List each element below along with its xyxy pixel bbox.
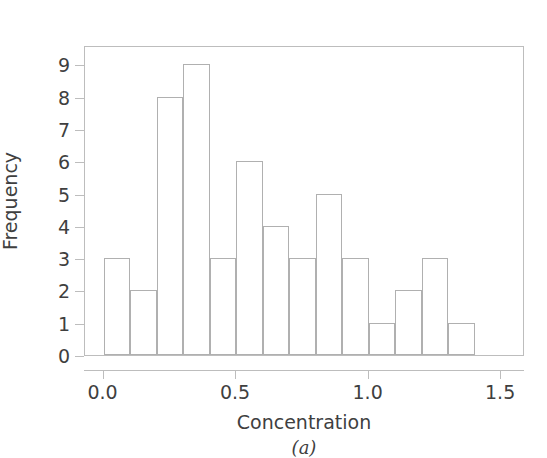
y-tick-label: 6 <box>58 153 70 172</box>
x-tick-label: 1.5 <box>485 383 515 402</box>
x-tick-mark <box>500 370 501 379</box>
x-tick-mark <box>103 370 104 379</box>
y-tick-mark <box>75 227 84 228</box>
x-tick-mark <box>368 370 369 379</box>
x-tick-label: 0.5 <box>220 383 250 402</box>
histogram-bar <box>157 97 184 355</box>
y-tick-mark <box>75 356 84 357</box>
y-tick-label: 7 <box>58 120 70 139</box>
y-tick-label: 4 <box>58 217 70 236</box>
bars-layer <box>85 47 523 355</box>
histogram-bar <box>316 194 343 355</box>
y-tick-label: 0 <box>58 347 70 366</box>
histogram-bar <box>183 64 210 355</box>
x-axis-line <box>84 370 524 371</box>
y-axis-title: Frequency <box>0 152 21 250</box>
y-tick-mark <box>75 324 84 325</box>
histogram-bar <box>263 226 290 355</box>
y-tick-mark <box>75 130 84 131</box>
x-axis-title: Concentration <box>237 411 371 433</box>
y-tick-label: 5 <box>58 185 70 204</box>
y-tick-label: 9 <box>58 56 70 75</box>
x-tick-label: 1.0 <box>353 383 383 402</box>
y-tick-label: 2 <box>58 282 70 301</box>
histogram-bar <box>422 258 449 355</box>
histogram-bar <box>210 258 237 355</box>
y-tick-label: 3 <box>58 250 70 269</box>
histogram-bar <box>130 290 157 355</box>
y-tick-label: 8 <box>58 88 70 107</box>
histogram-bar <box>104 258 131 355</box>
panel-caption: (a) <box>292 437 317 458</box>
histogram-bar <box>395 290 422 355</box>
y-tick-mark <box>75 291 84 292</box>
plot-area <box>84 46 524 356</box>
histogram-bar <box>448 323 475 355</box>
y-tick-mark <box>75 65 84 66</box>
histogram-bar <box>289 258 316 355</box>
y-tick-mark <box>75 162 84 163</box>
y-tick-mark <box>75 98 84 99</box>
y-tick-mark <box>75 195 84 196</box>
x-tick-label: 0.0 <box>87 383 117 402</box>
histogram-bar <box>236 161 263 355</box>
y-tick-label: 1 <box>58 314 70 333</box>
histogram-bar <box>369 323 396 355</box>
histogram-bar <box>342 258 369 355</box>
y-tick-mark <box>75 259 84 260</box>
x-tick-mark <box>235 370 236 379</box>
